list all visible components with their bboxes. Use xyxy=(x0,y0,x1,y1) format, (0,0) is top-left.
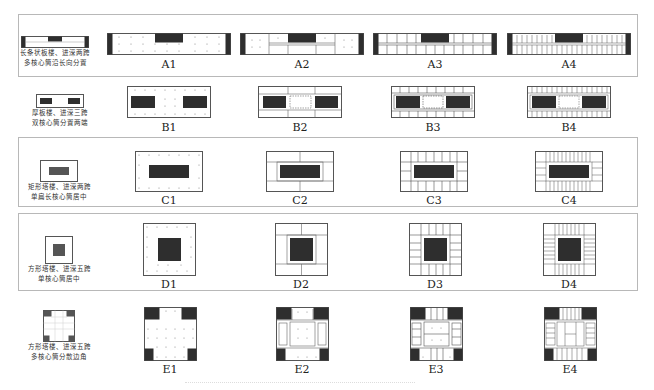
row-b-legend: 厚板楼、进深三跨 双核心筒分置两端 xyxy=(15,94,105,128)
plan-e4 xyxy=(544,307,597,361)
label-b1: B1 xyxy=(149,121,189,134)
row-d-caption-2: 单核心筒居中 xyxy=(14,274,104,284)
label-b3: B3 xyxy=(413,121,453,134)
row-e-caption-2: 多核心筒分散边角 xyxy=(14,352,104,362)
plan-a1 xyxy=(107,33,231,55)
plan-d3 xyxy=(409,223,462,276)
row-c-caption-1: 矩形塔楼、进深两跨 xyxy=(14,182,104,192)
label-d3: D3 xyxy=(415,278,455,291)
row-d-thumbnail xyxy=(45,236,73,264)
row-e-legend: 方形塔楼、进深五跨 多核心筒分散边角 xyxy=(14,310,104,362)
label-d4: D4 xyxy=(549,278,589,291)
label-b2: B2 xyxy=(280,121,320,134)
plan-b1 xyxy=(127,86,211,118)
label-c3: C3 xyxy=(414,194,454,207)
faint-caption-line xyxy=(185,382,415,385)
label-a4: A4 xyxy=(549,58,589,71)
plan-b4 xyxy=(527,86,611,118)
row-a-caption-1: 长条状板楼、进深两跨 xyxy=(10,48,100,58)
row-c-caption-2: 单扁长核心筒居中 xyxy=(14,192,104,202)
label-c2: C2 xyxy=(280,194,320,207)
label-c4: C4 xyxy=(549,194,589,207)
row-e-thumbnail xyxy=(43,310,75,342)
row-a-thumbnail xyxy=(21,36,89,48)
label-a3: A3 xyxy=(415,58,455,71)
row-b-caption-1: 厚板楼、进深三跨 xyxy=(15,108,105,118)
row-b-thumbnail xyxy=(36,94,84,108)
plan-b3 xyxy=(391,86,475,118)
plan-c3 xyxy=(400,151,468,192)
label-d2: D2 xyxy=(281,278,321,291)
plan-c4 xyxy=(535,151,603,192)
plan-e3 xyxy=(410,307,463,361)
row-d-caption-1: 方形塔楼、进深五跨 xyxy=(14,264,104,274)
label-e4: E4 xyxy=(550,363,590,376)
row-c-thumbnail xyxy=(40,160,78,182)
label-e3: E3 xyxy=(416,363,456,376)
plan-b2 xyxy=(258,86,342,118)
label-b4: B4 xyxy=(549,121,589,134)
plan-e1 xyxy=(144,307,197,361)
row-e-caption-1: 方形塔楼、进深五跨 xyxy=(14,342,104,352)
plan-c1 xyxy=(135,151,203,192)
label-e2: E2 xyxy=(282,363,322,376)
plan-d1 xyxy=(143,223,196,276)
plan-e2 xyxy=(276,307,329,361)
label-c1: C1 xyxy=(149,194,189,207)
label-a2: A2 xyxy=(282,58,322,71)
row-c-legend: 矩形塔楼、进深两跨 单扁长核心筒居中 xyxy=(14,160,104,202)
row-a-caption-2: 多核心筒沿长向分置 xyxy=(10,58,100,68)
row-a-legend: 长条状板楼、进深两跨 多核心筒沿长向分置 xyxy=(10,36,100,68)
plan-a2 xyxy=(240,33,364,55)
plan-c2 xyxy=(266,151,334,192)
label-d1: D1 xyxy=(149,278,189,291)
label-e1: E1 xyxy=(150,363,190,376)
plan-d2 xyxy=(275,223,328,276)
plan-a3 xyxy=(373,33,497,55)
row-d-legend: 方形塔楼、进深五跨 单核心筒居中 xyxy=(14,236,104,284)
row-b-caption-2: 双核心筒分置两端 xyxy=(15,118,105,128)
plan-d4 xyxy=(543,223,596,276)
plan-a4 xyxy=(507,33,631,55)
label-a1: A1 xyxy=(149,58,189,71)
